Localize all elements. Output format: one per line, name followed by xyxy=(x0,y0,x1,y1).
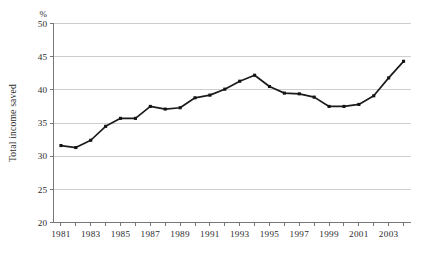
y-tick-label-40: 40 xyxy=(38,85,48,95)
data-point-1985 xyxy=(119,117,122,120)
x-tick-label-1997: 1997 xyxy=(289,229,309,239)
x-tick-label-1983: 1983 xyxy=(81,229,101,239)
x-tick-label-2003: 2003 xyxy=(379,229,399,239)
x-tick-label-1995: 1995 xyxy=(260,229,280,239)
data-point-1998 xyxy=(313,96,316,99)
data-point-2001 xyxy=(357,103,360,106)
data-point-1984 xyxy=(104,125,107,128)
x-tick-label-1999: 1999 xyxy=(319,229,339,239)
data-point-1997 xyxy=(298,92,301,95)
data-point-1989 xyxy=(179,106,182,109)
data-point-1993 xyxy=(238,80,241,83)
y-tick-label-35: 35 xyxy=(38,118,48,128)
line-chart: 2025303540455019811983198519871989199119… xyxy=(0,0,426,255)
data-point-1987 xyxy=(149,105,152,108)
y-tick-label-50: 50 xyxy=(38,19,48,29)
data-series-line xyxy=(61,61,404,147)
x-tick-label-1991: 1991 xyxy=(200,229,220,239)
y-tick-label-30: 30 xyxy=(38,151,48,161)
y-tick-label-25: 25 xyxy=(38,185,48,195)
data-point-1982 xyxy=(74,146,77,149)
x-tick-label-1989: 1989 xyxy=(170,229,190,239)
data-point-1992 xyxy=(223,88,226,91)
y-unit-label: % xyxy=(40,9,48,19)
y-tick-label-20: 20 xyxy=(38,218,48,228)
data-point-1996 xyxy=(283,92,286,95)
data-point-2004 xyxy=(402,60,405,63)
data-point-2002 xyxy=(372,94,375,97)
data-point-1988 xyxy=(164,108,167,111)
data-point-1986 xyxy=(134,117,137,120)
x-tick-label-1985: 1985 xyxy=(111,229,131,239)
x-tick-label-1987: 1987 xyxy=(141,229,161,239)
y-axis-title: Total income saved xyxy=(7,84,18,162)
data-point-1991 xyxy=(208,94,211,97)
x-tick-label-1981: 1981 xyxy=(51,229,71,239)
data-point-1990 xyxy=(193,96,196,99)
x-tick-label-2001: 2001 xyxy=(349,229,369,239)
data-point-2000 xyxy=(342,105,345,108)
data-point-1983 xyxy=(89,139,92,142)
y-tick-label-45: 45 xyxy=(38,52,48,62)
data-point-1995 xyxy=(268,85,271,88)
data-point-1999 xyxy=(328,105,331,108)
x-tick-label-1993: 1993 xyxy=(230,229,250,239)
chart-figure: 2025303540455019811983198519871989199119… xyxy=(0,0,426,255)
data-point-1981 xyxy=(59,144,62,147)
data-point-1994 xyxy=(253,74,256,77)
data-point-2003 xyxy=(387,76,390,79)
